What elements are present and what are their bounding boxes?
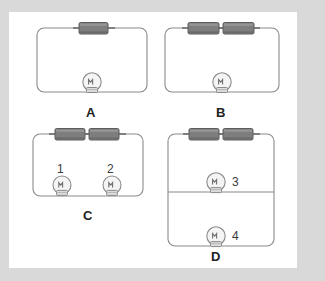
circuit-c: 1 2 C xyxy=(29,128,151,218)
bulb-label-2: 2 xyxy=(107,163,114,175)
battery-cell-icon xyxy=(188,23,219,35)
light-bulb-icon xyxy=(53,176,71,195)
circuit-label-a: A xyxy=(86,106,96,119)
bulb-label-1: 1 xyxy=(57,163,64,175)
circuit-a: A xyxy=(33,22,151,104)
battery-cell-icon xyxy=(223,129,253,141)
battery-cell-icon xyxy=(79,23,108,35)
light-bulb-icon xyxy=(103,176,121,195)
figure-root: A xyxy=(0,0,325,281)
light-bulb-icon xyxy=(207,227,225,247)
bulb-label-3: 3 xyxy=(232,176,239,188)
circuit-b-drawing xyxy=(161,22,283,104)
circuit-label-b: B xyxy=(216,106,226,119)
battery-cell-icon xyxy=(189,129,219,141)
bulb-label-4: 4 xyxy=(232,230,239,242)
circuit-d: 3 4 D xyxy=(164,128,292,260)
circuit-label-c: C xyxy=(83,209,93,222)
battery-cell-icon xyxy=(223,23,254,35)
circuit-a-drawing xyxy=(33,22,151,104)
light-bulb-icon xyxy=(83,73,101,93)
battery-cell-icon xyxy=(89,129,119,141)
light-bulb-icon xyxy=(213,73,231,93)
circuit-c-drawing xyxy=(29,128,151,218)
circuit-b: B xyxy=(161,22,283,104)
wire-loop xyxy=(33,134,143,196)
battery-cell-icon xyxy=(55,129,85,141)
light-bulb-icon xyxy=(207,173,225,193)
circuit-label-d: D xyxy=(211,250,221,263)
circuit-d-drawing xyxy=(164,128,292,260)
figure-panel: A xyxy=(9,12,297,268)
